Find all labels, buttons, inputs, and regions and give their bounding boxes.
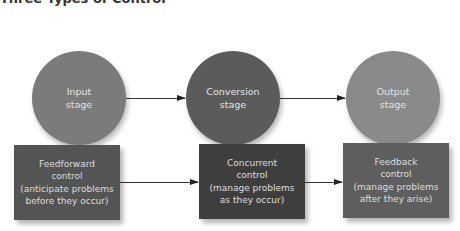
output-stage-label-line-2: stage (377, 98, 410, 111)
concurrent-control-box: Concurrent control (manage problems as t… (199, 144, 305, 219)
input-stage-label-line-1: Input (66, 85, 92, 98)
feedforward-control-box: Feedforward control (anticipate problems… (14, 145, 120, 220)
feedback-line-2: control (353, 168, 438, 181)
concurrent-line-3: (manage problems (209, 182, 294, 195)
arrow-feedforward-to-concurrent (120, 182, 198, 183)
feedback-line-1: Feedback (353, 156, 438, 169)
feedforward-line-3: (anticipate problems (20, 183, 113, 196)
input-stage-node: Input stage (32, 51, 126, 145)
output-stage-node: Output stage (346, 51, 440, 145)
conversion-stage-label-line-2: stage (206, 98, 259, 111)
conversion-stage-node: Conversion stage (186, 51, 280, 145)
concurrent-line-1: Concurrent (209, 157, 294, 170)
feedback-line-4: after they arise) (353, 193, 438, 206)
diagram-title: Three Types of Control (0, 0, 166, 6)
feedforward-line-1: Feedforward (20, 158, 113, 171)
arrow-input-to-conversion (126, 98, 185, 99)
arrow-concurrent-to-feedback (305, 182, 342, 183)
output-stage-label-line-1: Output (377, 85, 410, 98)
arrow-conversion-to-output (280, 98, 345, 99)
conversion-stage-label-line-1: Conversion (206, 85, 259, 98)
feedback-line-3: (manage problems (353, 181, 438, 194)
feedback-control-box: Feedback control (manage problems after … (343, 143, 449, 218)
feedforward-line-2: control (20, 170, 113, 183)
input-stage-label-line-2: stage (66, 98, 92, 111)
feedforward-line-4: before they occur) (20, 195, 113, 208)
concurrent-line-2: control (209, 169, 294, 182)
concurrent-line-4: as they occur) (209, 194, 294, 207)
